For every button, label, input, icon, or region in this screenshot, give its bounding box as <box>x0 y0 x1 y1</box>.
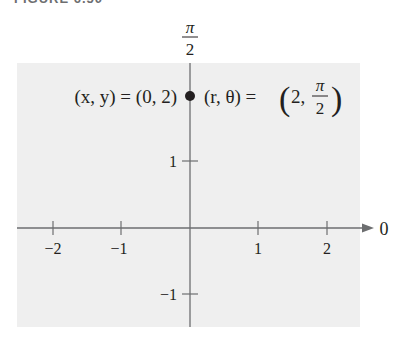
open-paren: ( <box>279 80 290 118</box>
x-tick-label: 1 <box>254 240 262 257</box>
y-tick-label: −1 <box>160 286 177 303</box>
polar-label-prefix: (r, θ) = <box>204 86 256 108</box>
theta-numerator: π <box>316 76 325 95</box>
polar-axis-label: 0 <box>380 219 389 239</box>
plotted-point <box>185 91 195 101</box>
x-tick-label: −2 <box>44 240 61 257</box>
plot-background <box>17 63 360 327</box>
y-tick-label: 1 <box>169 153 177 170</box>
polar-r-value: 2, <box>291 86 305 107</box>
theta-denominator: 2 <box>316 99 325 118</box>
vertical-axis-label: π 2 <box>182 18 198 59</box>
x-tick-label: 2 <box>323 240 331 257</box>
rectangular-coordinates-label: (x, y) = (0, 2) <box>74 86 177 108</box>
rect-label-text: (x, y) = (0, 2) <box>74 86 177 108</box>
close-paren: ) <box>331 80 342 118</box>
x-tick-label: −1 <box>110 240 127 257</box>
denominator: 2 <box>186 40 195 59</box>
polar-axis-arrow-icon <box>362 224 374 233</box>
pi-numerator: π <box>186 18 195 37</box>
polar-diagram: −2 −1 1 2 1 −1 0 π 2 (x, y) = (0, 2) (r,… <box>0 0 405 343</box>
